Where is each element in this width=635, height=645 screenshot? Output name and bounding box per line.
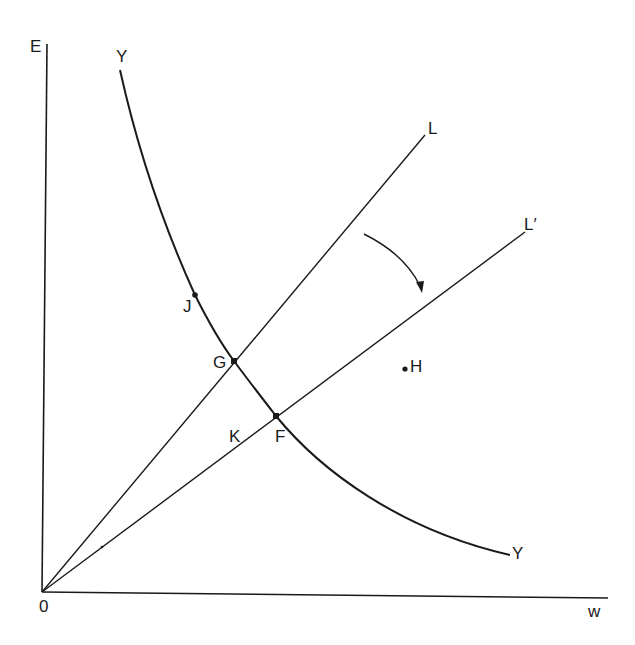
origin-label: 0 (39, 598, 48, 615)
point-F-label: F (275, 428, 285, 445)
point-G (231, 358, 237, 364)
x-axis (42, 592, 608, 598)
y-axis-label: E (30, 38, 41, 55)
point-G-label: G (213, 354, 226, 371)
point-F (273, 413, 279, 419)
curve-Y (120, 70, 510, 555)
rotation-arrow (364, 234, 420, 286)
point-H-label: H (410, 358, 422, 375)
point-H (402, 366, 407, 371)
point-K-label: K (229, 428, 240, 445)
line-L-label: L (428, 120, 437, 137)
point-J-label: J (183, 298, 192, 315)
curve-Y-label-start: Y (116, 48, 127, 65)
arrowhead-icon (416, 281, 424, 293)
diagram-canvas (0, 0, 635, 645)
y-axis (42, 44, 47, 592)
line-L-prime-label: L′ (524, 216, 537, 233)
x-axis-label: w (588, 603, 600, 620)
tick-mark-L-prime (101, 546, 104, 549)
point-J (192, 292, 198, 298)
curve-Y-label-end: Y (512, 545, 523, 562)
